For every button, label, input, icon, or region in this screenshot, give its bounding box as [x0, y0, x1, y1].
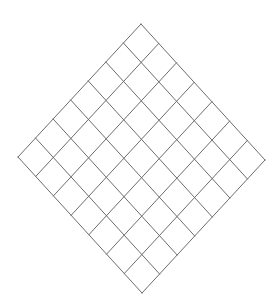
- figure-canvas: [0, 0, 280, 303]
- diamond-grid-diagram: [0, 0, 280, 303]
